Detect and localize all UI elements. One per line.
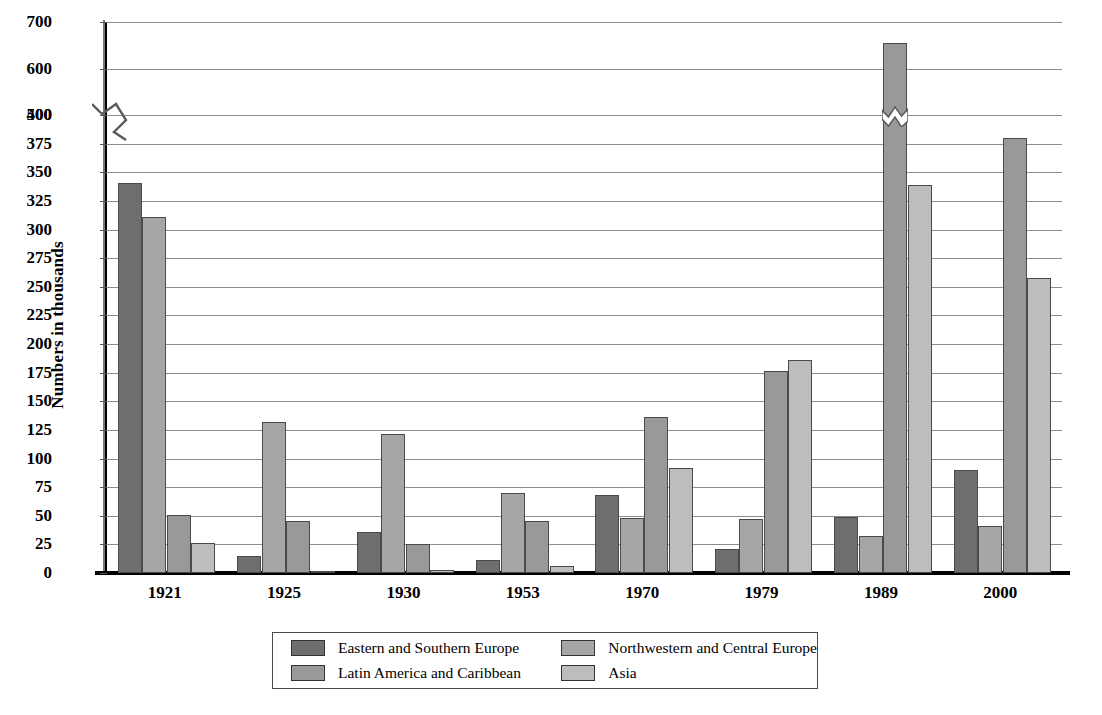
- y-axis-tick-mark: [100, 573, 107, 574]
- y-axis-tick-mark: [100, 487, 107, 488]
- bar[interactable]: [476, 560, 500, 573]
- y-axis-tick-label: 175: [0, 364, 52, 381]
- bar[interactable]: [311, 571, 335, 573]
- legend-label: Northwestern and Central Europe: [608, 639, 817, 657]
- y-axis-tick-mark: [100, 69, 107, 70]
- bar[interactable]: [501, 493, 525, 573]
- bar[interactable]: [669, 468, 693, 573]
- y-axis-tick-label: 25: [0, 535, 52, 552]
- chart-legend: Eastern and Southern Europe Northwestern…: [272, 632, 818, 689]
- x-axis-tick-label: 1925: [224, 583, 344, 603]
- bar[interactable]: [1027, 278, 1051, 573]
- bar-chart: Numbers in thousands 0255075100125150175…: [0, 0, 1102, 715]
- gridline: [107, 172, 1062, 173]
- bar[interactable]: [430, 570, 454, 573]
- bar[interactable]: [262, 422, 286, 573]
- legend-swatch-icon: [291, 665, 325, 681]
- y-axis-tick-mark: [100, 544, 107, 545]
- y-axis-tick-mark: [100, 230, 107, 231]
- bar[interactable]: [191, 543, 215, 573]
- gridline: [107, 144, 1062, 145]
- y-axis-tick-label: 325: [0, 192, 52, 209]
- y-axis-tick-mark: [100, 459, 107, 460]
- y-axis-tick-label: 100: [0, 450, 52, 467]
- bar[interactable]: [357, 532, 381, 573]
- bar[interactable]: [954, 470, 978, 573]
- bar[interactable]: [644, 417, 668, 573]
- gridline: [107, 115, 1062, 116]
- bar[interactable]: [739, 519, 763, 573]
- bar[interactable]: [550, 566, 574, 573]
- y-axis-tick-label: 150: [0, 392, 52, 409]
- x-axis-tick-label: 1979: [702, 583, 822, 603]
- y-axis-tick-label: 50: [0, 507, 52, 524]
- bar[interactable]: [286, 521, 310, 573]
- bar[interactable]: [167, 515, 191, 573]
- legend-swatch-icon: [561, 665, 595, 681]
- y-axis-tick-label: 500: [0, 106, 52, 123]
- bar[interactable]: [908, 185, 932, 573]
- y-axis-tick-mark: [100, 287, 107, 288]
- legend-label: Asia: [608, 664, 636, 682]
- legend-item-latin-america-and-caribbean[interactable]: Latin America and Caribbean: [273, 664, 543, 682]
- bar-break-icon: [882, 101, 908, 127]
- y-axis-tick-mark: [100, 315, 107, 316]
- gridline: [107, 69, 1062, 70]
- legend-label: Eastern and Southern Europe: [338, 639, 519, 657]
- bar[interactable]: [715, 549, 739, 573]
- y-axis-tick-mark: [100, 430, 107, 431]
- y-axis-tick-label: 200: [0, 335, 52, 352]
- y-axis-tick-mark: [100, 144, 107, 145]
- bar[interactable]: [883, 43, 907, 573]
- bar[interactable]: [595, 495, 619, 573]
- y-axis-tick-label: 375: [0, 135, 52, 152]
- x-axis-tick-label: 1953: [463, 583, 583, 603]
- bar[interactable]: [525, 521, 549, 573]
- y-axis-tick-label: 225: [0, 306, 52, 323]
- legend-swatch-icon: [291, 640, 325, 656]
- axis-break-icon: [92, 100, 132, 142]
- y-axis-tick-mark: [100, 201, 107, 202]
- legend-label: Latin America and Caribbean: [338, 664, 521, 682]
- bar[interactable]: [1003, 138, 1027, 573]
- y-axis-tick-label: 300: [0, 221, 52, 238]
- bar[interactable]: [381, 434, 405, 573]
- y-axis-tick-label: 250: [0, 278, 52, 295]
- plot-area: 0255075100125150175200225250275300325350…: [105, 22, 1062, 573]
- y-axis-tick-label: 0: [0, 564, 52, 581]
- y-axis-tick-label: 125: [0, 421, 52, 438]
- x-axis-tick-label: 2000: [940, 583, 1060, 603]
- y-axis-tick-mark: [100, 401, 107, 402]
- bar[interactable]: [859, 536, 883, 573]
- x-axis-tick-label: 1921: [105, 583, 225, 603]
- legend-item-asia[interactable]: Asia: [543, 664, 817, 682]
- y-axis-tick-label: 350: [0, 163, 52, 180]
- gridline: [107, 22, 1062, 23]
- bar[interactable]: [978, 526, 1002, 573]
- y-axis-tick-mark: [100, 258, 107, 259]
- y-axis-tick-label: 600: [0, 60, 52, 77]
- bar[interactable]: [237, 556, 261, 573]
- legend-item-northwestern-and-central-europe[interactable]: Northwestern and Central Europe: [543, 639, 817, 657]
- bar[interactable]: [788, 360, 812, 573]
- x-axis-tick-label: 1970: [582, 583, 702, 603]
- y-axis-tick-mark: [100, 373, 107, 374]
- y-axis-tick-label: 75: [0, 478, 52, 495]
- bar[interactable]: [406, 544, 430, 573]
- y-axis-tick-mark: [100, 516, 107, 517]
- bar[interactable]: [620, 518, 644, 573]
- y-axis-tick-mark: [100, 22, 107, 23]
- bar[interactable]: [764, 371, 788, 573]
- bar[interactable]: [142, 217, 166, 573]
- y-axis-tick-mark: [100, 344, 107, 345]
- y-axis-tick-mark: [100, 172, 107, 173]
- y-axis-tick-label: 275: [0, 249, 52, 266]
- bar[interactable]: [834, 517, 858, 573]
- bar[interactable]: [118, 183, 142, 573]
- legend-item-eastern-and-southern-europe[interactable]: Eastern and Southern Europe: [273, 639, 543, 657]
- y-axis-tick-label: 700: [0, 13, 52, 30]
- legend-swatch-icon: [561, 640, 595, 656]
- x-axis-tick-label: 1930: [343, 583, 463, 603]
- x-axis-tick-label: 1989: [821, 583, 941, 603]
